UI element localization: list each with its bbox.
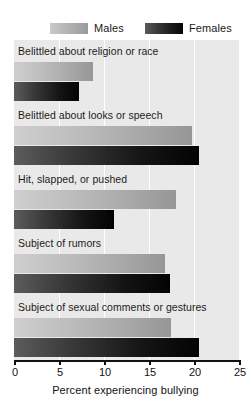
gridline-25 [239,40,240,360]
plot-area: Belittled about religion or raceBelittle… [14,40,239,360]
bar-group: Belittled about looks or speech [14,104,239,168]
bar-females [14,338,199,357]
bar-group: Hit, slapped, or pushed [14,168,239,232]
x-tick [239,360,241,365]
bar-group: Belittled about religion or race [14,40,239,104]
bar-females [14,210,114,229]
bar-males [14,254,165,273]
bar-chart-figure: Males Females Belittled about religion o… [0,0,251,406]
bar-group: Subject of sexual comments or gestures [14,296,239,360]
legend-label-males: Males [94,22,124,34]
category-label: Subject of rumors [18,237,101,249]
bar-males [14,126,192,145]
bar-group: Subject of rumors [14,232,239,296]
category-label: Belittled about religion or race [18,45,159,57]
x-tick-label: 15 [144,366,156,378]
x-tick [104,360,106,365]
x-axis-line [14,360,240,362]
males-swatch-icon [50,23,88,34]
bar-males [14,318,171,337]
bar-males [14,62,93,81]
legend-item-females: Females [145,20,232,36]
bar-females [14,146,199,165]
x-tick [149,360,151,365]
x-tick [194,360,196,365]
bar-males [14,190,176,209]
category-label: Hit, slapped, or pushed [18,173,127,185]
category-label: Belittled about looks or speech [18,109,163,121]
chart-legend: Males Females [14,20,239,36]
x-tick [14,360,16,365]
x-tick [59,360,61,365]
bar-females [14,82,79,101]
x-tick-label: 25 [234,366,246,378]
x-tick-label: 10 [99,366,111,378]
legend-item-males: Males [50,20,124,36]
x-tick-label: 20 [189,366,201,378]
legend-label-females: Females [189,22,232,34]
x-tick-label: 0 [12,366,18,378]
females-swatch-icon [145,23,183,34]
bar-females [14,274,170,293]
x-tick-label: 5 [57,366,63,378]
category-label: Subject of sexual comments or gestures [18,301,207,313]
x-axis-label: Percent experiencing bullying [0,384,251,396]
